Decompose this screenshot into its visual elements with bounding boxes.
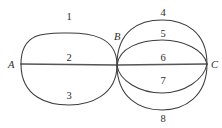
vertex-label-a: A [7,59,15,70]
multigraph-figure: 1 2 3 4 5 6 7 8 A B C [0,0,222,128]
edge-label-7: 7 [160,75,165,86]
edge-label-6: 6 [160,52,165,63]
edge-8[interactable] [117,64,207,110]
graph-canvas: 1 2 3 4 5 6 7 8 A B C [0,0,222,128]
edge-2[interactable] [21,64,117,65]
edge-label-5: 5 [160,28,165,39]
edge-label-4: 4 [160,7,166,18]
edge-label-8: 8 [160,113,165,124]
vertex-label-b: B [114,31,121,42]
edge-label-2: 2 [66,52,71,63]
vertex-label-c: C [211,59,219,70]
edge-6[interactable] [117,64,207,65]
edge-label-3: 3 [66,90,71,101]
edge-label-1: 1 [66,11,71,22]
